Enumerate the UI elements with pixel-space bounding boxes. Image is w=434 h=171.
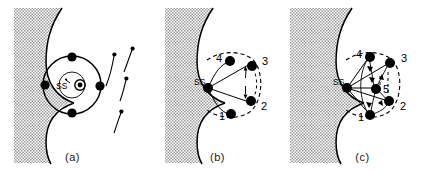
node-3 xyxy=(247,61,257,71)
dashed-inner-arc xyxy=(252,68,257,100)
node-label-5: 5 xyxy=(383,83,389,95)
panel-a-caption: (a) xyxy=(0,151,145,163)
node-2 xyxy=(246,96,256,106)
arrow-head-left-2 xyxy=(378,100,383,106)
edge-ss-to-4 xyxy=(208,62,229,88)
node-label-4: 4 xyxy=(216,52,222,64)
figure-root: SS (a) xyxy=(0,0,434,171)
trajectory-2 xyxy=(124,50,132,72)
panel-c: SS 4 3 2 1 5 (c) xyxy=(290,0,434,171)
ss-label-a: SS xyxy=(56,81,68,91)
panel-b: SS 4 3 2 1 (b) xyxy=(145,0,290,171)
panel-c-graphic: SS 4 3 2 1 5 xyxy=(290,0,434,171)
ss-label-b: SS xyxy=(194,77,206,87)
trajectory-3 xyxy=(120,80,126,101)
node-label-2: 2 xyxy=(400,100,406,112)
trajectory-1-particle xyxy=(112,52,116,56)
boundary-stipple-region xyxy=(14,8,134,163)
ring-node-east xyxy=(95,81,104,90)
node-5 xyxy=(371,84,381,94)
node-label-1: 1 xyxy=(219,110,225,122)
node-1 xyxy=(226,109,236,119)
trajectory-1 xyxy=(106,56,114,86)
inner-arrow-line-up xyxy=(246,70,247,78)
node-2 xyxy=(384,96,394,106)
node-3 xyxy=(385,58,395,68)
node-label-3: 3 xyxy=(401,52,407,64)
arrow-head-down-5 xyxy=(369,77,375,83)
node-4 xyxy=(225,56,235,66)
panel-c-caption: (c) xyxy=(290,151,434,163)
panel-b-caption: (b) xyxy=(145,151,290,163)
trajectory-3-particle xyxy=(124,76,128,80)
node-label-3: 3 xyxy=(262,55,268,67)
ring-node-north xyxy=(67,52,76,61)
node-label-2: 2 xyxy=(261,100,267,112)
node-4 xyxy=(365,52,375,62)
ss-label-c: SS xyxy=(333,77,345,87)
panel-a-graphic: SS xyxy=(0,0,145,171)
node-label-4: 4 xyxy=(356,48,362,60)
trajectory-4-particle xyxy=(119,110,123,114)
node-1 xyxy=(365,110,375,120)
core-dot xyxy=(78,83,83,88)
trajectory-4 xyxy=(114,113,121,133)
node-label-1: 1 xyxy=(358,111,364,123)
arrow-head-down-1 xyxy=(366,102,372,108)
ring-node-south xyxy=(67,108,76,117)
arrow-head-down-4 xyxy=(367,66,373,72)
panel-b-graphic: SS 4 3 2 1 xyxy=(145,0,290,171)
trajectory-2-particle xyxy=(131,47,135,51)
panel-a: SS (a) xyxy=(0,0,145,171)
boundary-stipple-region xyxy=(165,8,285,163)
ring-node-west xyxy=(40,80,49,89)
